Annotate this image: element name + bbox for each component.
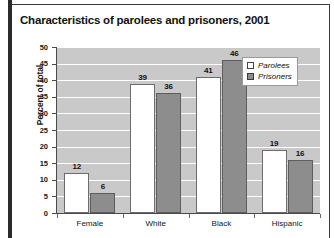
gridline [57, 97, 320, 98]
y-tick-mark [52, 147, 56, 148]
y-tick-mark [52, 196, 56, 197]
gridline [57, 113, 320, 114]
x-tick-mark [123, 214, 124, 218]
y-tick-label: 50 [26, 43, 48, 52]
y-tick-mark [52, 213, 56, 214]
y-tick-mark [52, 113, 56, 114]
bar-value-label: 19 [262, 139, 287, 148]
bar-parolees-black [196, 77, 221, 213]
legend-swatch-parolees-icon [247, 62, 254, 69]
x-tick-label: Black [189, 219, 255, 228]
legend-item-prisoners: Prisoners [247, 71, 292, 82]
left-accent-rail [8, 0, 12, 238]
chart-figure: Characteristics of parolees and prisoner… [0, 0, 334, 238]
y-tick-mark [52, 163, 56, 164]
bar-value-label: 6 [90, 182, 115, 191]
y-tick-mark [52, 64, 56, 65]
bar-value-label: 41 [196, 66, 221, 75]
figure-border-right [329, 4, 330, 238]
y-tick-label: 15 [26, 159, 48, 168]
y-tick-mark [52, 130, 56, 131]
chart-legend: Parolees Prisoners [242, 57, 298, 86]
bar-prisoners-white [156, 93, 181, 213]
legend-label-parolees: Parolees [258, 61, 290, 70]
chart-title: Characteristics of parolees and prisoner… [20, 14, 269, 26]
bar-parolees-white [130, 84, 155, 213]
bar-prisoners-female [90, 193, 115, 213]
bar-parolees-hispanic [262, 150, 287, 213]
y-tick-label: 25 [26, 126, 48, 135]
y-tick-label: 40 [26, 76, 48, 85]
gridline [57, 130, 320, 131]
y-tick-label: 20 [26, 142, 48, 151]
y-tick-label: 30 [26, 109, 48, 118]
y-tick-label: 10 [26, 175, 48, 184]
x-tick-mark [320, 214, 321, 218]
x-tick-label: Hispanic [254, 219, 320, 228]
x-tick-mark [189, 214, 190, 218]
y-tick-mark [52, 180, 56, 181]
x-tick-label: Female [57, 219, 123, 228]
bar-value-label: 16 [288, 149, 313, 158]
legend-label-prisoners: Prisoners [258, 72, 292, 81]
y-tick-label: 45 [26, 59, 48, 68]
x-tick-mark [254, 214, 255, 218]
bar-value-label: 36 [156, 82, 181, 91]
y-tick-label: 35 [26, 92, 48, 101]
y-tick-label: 0 [26, 209, 48, 218]
bar-value-label: 12 [64, 162, 89, 171]
bar-prisoners-hispanic [288, 160, 313, 213]
bar-parolees-female [64, 173, 89, 213]
figure-border-top [12, 4, 330, 5]
y-tick-mark [52, 97, 56, 98]
y-tick-mark [52, 80, 56, 81]
x-tick-mark [57, 214, 58, 218]
y-tick-label: 5 [26, 192, 48, 201]
y-tick-mark [52, 47, 56, 48]
bar-value-label: 39 [130, 73, 155, 82]
y-axis-line [56, 47, 57, 214]
legend-swatch-prisoners-icon [247, 73, 254, 80]
legend-item-parolees: Parolees [247, 60, 292, 71]
x-tick-label: White [123, 219, 189, 228]
gridline [57, 47, 320, 48]
